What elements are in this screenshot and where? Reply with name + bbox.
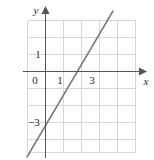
y-axis-arrowhead [42,6,50,14]
tick-label-x-three: 3 [89,74,95,86]
grid-lines [28,21,136,153]
tick-label-y-neg-three: −3 [28,116,40,128]
tick-label-y-one: 1 [35,48,41,60]
tick-label-x-one: 1 [57,74,63,86]
graph-canvas: 0 1 3 1 −3 y x [0,0,154,160]
y-axis-label: y [33,4,39,16]
coordinate-graph-figure: 0 1 3 1 −3 y x [0,0,154,160]
x-axis-label: x [143,75,149,87]
plotted-line-series [27,11,113,157]
axes [23,6,148,158]
line-segment [27,11,113,157]
tick-label-origin: 0 [32,74,38,86]
